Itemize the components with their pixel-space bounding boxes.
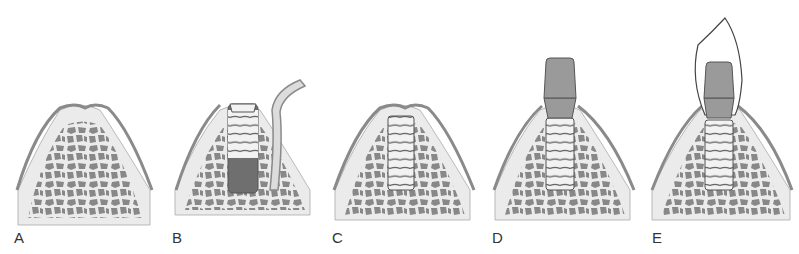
implant-threads (228, 110, 258, 158)
abutment-neck (704, 98, 734, 118)
panel-d (494, 58, 634, 220)
abutment-neck (544, 98, 576, 118)
implant-body (388, 116, 414, 190)
implant-body (705, 120, 733, 190)
implant-body (546, 118, 574, 190)
panel-b (175, 80, 310, 215)
panel-label-a: A (14, 229, 24, 246)
implant-collar (230, 104, 256, 112)
abutment (704, 62, 734, 98)
abutment (544, 58, 576, 98)
panel-label-b: B (172, 229, 182, 246)
panel-e (652, 18, 792, 220)
panel-label-d: D (492, 229, 503, 246)
panel-label-e: E (652, 229, 662, 246)
implant-stages-diagram (0, 0, 799, 254)
panel-label-c: C (332, 229, 343, 246)
panel-c (334, 105, 474, 220)
panel-a (17, 105, 152, 225)
